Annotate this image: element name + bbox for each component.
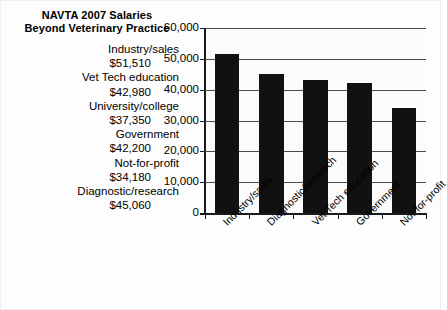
y-tick-label: 30,000 <box>139 115 199 127</box>
x-tick-mark <box>426 214 427 219</box>
y-tick-label: 50,000 <box>139 53 199 65</box>
x-tick-mark <box>249 214 250 219</box>
y-tick-label: 20,000 <box>139 145 199 157</box>
y-tick-label: 10,000 <box>139 176 199 188</box>
y-tick-mark <box>200 28 205 29</box>
y-tick-mark <box>200 90 205 91</box>
salary-category: Vet Tech education <box>1 70 179 84</box>
salary-category: University/college <box>1 99 179 113</box>
y-tick-mark <box>200 182 205 183</box>
y-tick-mark <box>200 121 205 122</box>
x-tick-mark <box>205 214 206 219</box>
y-tick-label: 60,000 <box>139 22 199 34</box>
y-tick-mark <box>200 151 205 152</box>
gridline <box>205 28 426 29</box>
x-tick-mark <box>382 214 383 219</box>
y-tick-mark <box>200 59 205 60</box>
title-line-1: NAVTA 2007 Salaries <box>11 9 183 22</box>
x-tick-mark <box>338 214 339 219</box>
salary-category: Not-for-profit <box>1 156 179 170</box>
x-tick-mark <box>293 214 294 219</box>
bar <box>392 108 417 213</box>
y-tick-label: 0 <box>139 207 199 219</box>
y-tick-label: 40,000 <box>139 84 199 96</box>
bar-chart: 010,00020,00030,00040,00050,00060,000 In… <box>205 28 426 213</box>
bar <box>215 54 240 213</box>
salary-category: Government <box>1 127 179 141</box>
